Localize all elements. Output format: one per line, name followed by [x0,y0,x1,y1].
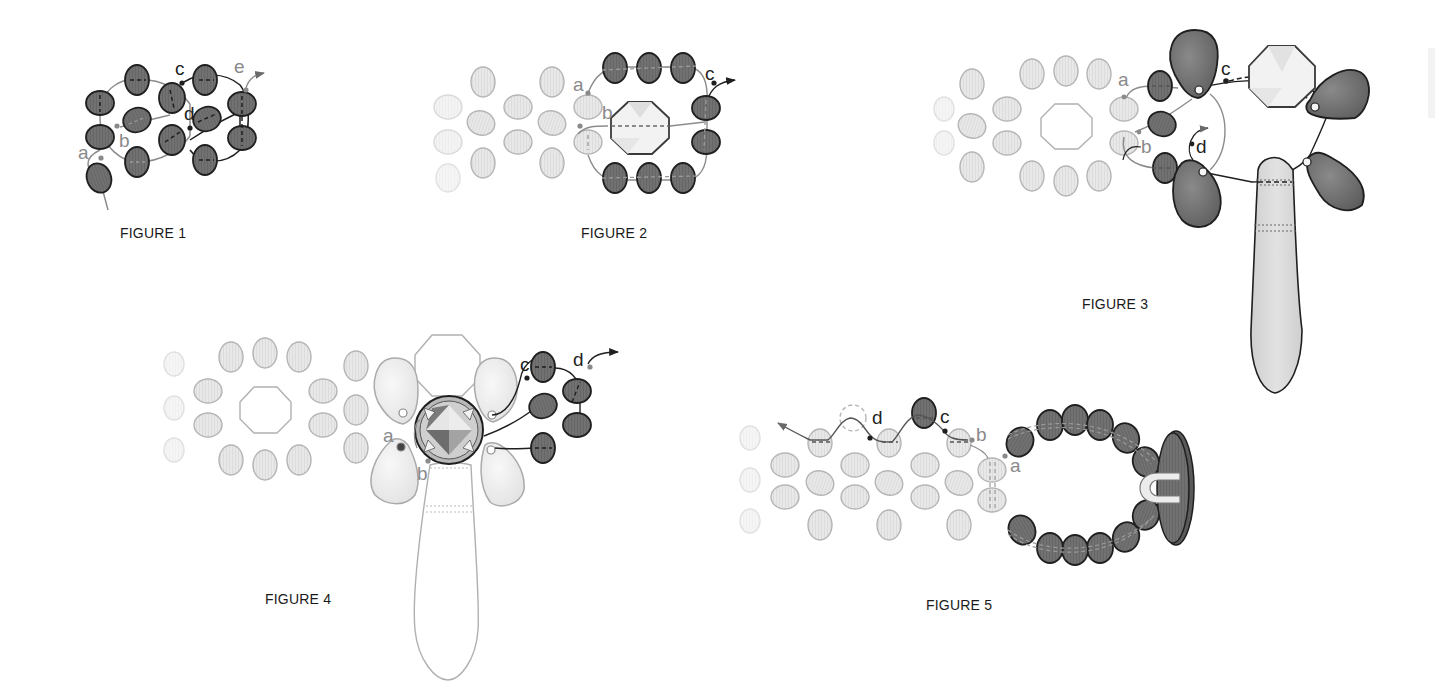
point-label-b: b [1141,136,1152,157]
figure-3: c d a b FIGURE 3 [930,0,1370,400]
figure-5-caption: FIGURE 5 [926,597,992,613]
figure-1: c d e b a FIGURE 1 [0,0,300,250]
figure-2: a b c FIGURE 2 [430,40,760,250]
point-label-d: d [872,407,883,428]
point-label-c: c [175,58,185,79]
point-label-b: b [417,463,428,484]
figure-4: c d a b FIGURE 4 [160,330,640,694]
point-label-c: c [520,354,530,375]
figure-1-diagram: c d e b a [0,0,300,250]
point-label-c: c [705,63,715,84]
point-label-e: e [234,56,245,77]
figure-4-caption: FIGURE 4 [265,591,331,607]
figure-5: c d b a FIGURE 5 [740,390,1220,620]
point-label-d: d [1196,136,1207,157]
point-label-b: b [119,130,130,151]
figure-3-caption: FIGURE 3 [1082,296,1148,312]
point-label-c: c [1221,58,1231,79]
point-label-a: a [78,142,89,163]
point-label-a: a [1010,455,1021,476]
point-label-a: a [573,74,584,95]
figure-1-caption: FIGURE 1 [120,225,186,241]
point-label-c: c [940,406,950,427]
octagon-crystal [611,102,669,154]
point-label-a: a [383,425,394,446]
figure-5-diagram: c d b a [740,390,1220,620]
point-label-b: b [602,102,613,123]
point-label-b: b [976,424,987,445]
figure-2-diagram: a b c [430,40,760,250]
figure-3-diagram: c d a b [930,0,1370,400]
figure-4-diagram: c d a b [160,330,640,694]
point-label-d: d [184,103,195,124]
point-label-a: a [1118,69,1129,90]
page-edge-mark [1428,48,1435,118]
figure-2-caption: FIGURE 2 [581,225,647,241]
rivoli-crystal [415,396,483,464]
point-label-d: d [573,349,584,370]
